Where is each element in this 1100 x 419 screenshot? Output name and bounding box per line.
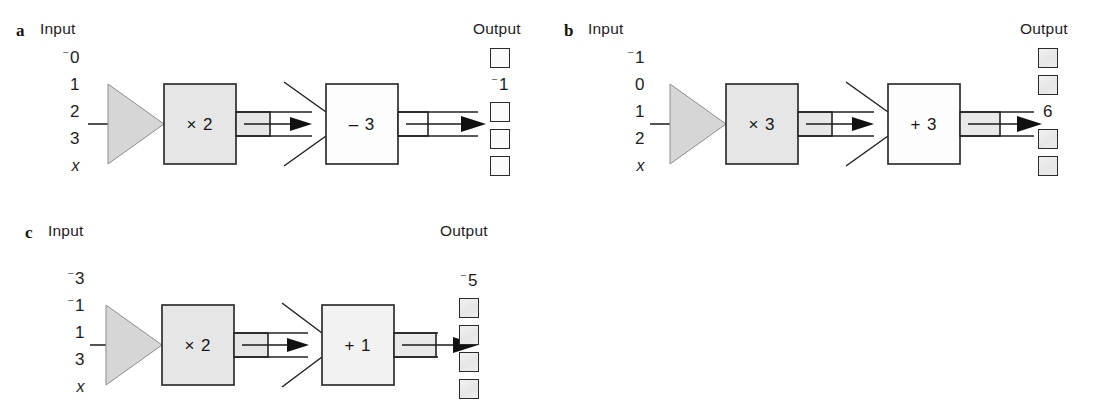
- output-empty-box[interactable]: [490, 48, 510, 68]
- machine-label-1: × 2: [184, 336, 211, 355]
- input-number: 1: [70, 75, 80, 94]
- output-cell: [490, 125, 510, 152]
- panel-a: a Input Output ⁻0 1 2 3 x: [0, 0, 550, 205]
- panel-b-input-column: ⁻1 0 1 2 x: [605, 44, 645, 179]
- funnel-open-2-upper: [284, 82, 326, 112]
- input-number: 1: [635, 48, 645, 67]
- negative-sign: ⁻: [62, 47, 70, 62]
- output-empty-box[interactable]: [1038, 156, 1058, 176]
- panel-b-letter: b: [564, 22, 573, 39]
- panel-c-diagram-svg: × 2 + 1: [90, 299, 480, 391]
- input-number: 1: [75, 323, 85, 342]
- connector-arrow-head: [852, 117, 874, 131]
- output-cell: [459, 321, 479, 348]
- input-number: 0: [70, 48, 80, 67]
- output-cell: [1038, 71, 1058, 98]
- input-variable: x: [605, 152, 645, 179]
- input-value: 1: [40, 71, 80, 98]
- figure-root: { "figure": { "title_hidden": "", "capti…: [0, 0, 1100, 419]
- output-cell: [1038, 44, 1058, 71]
- output-cell: [1038, 125, 1058, 152]
- panel-c-input-caption: Input: [48, 223, 83, 239]
- output-empty-box[interactable]: [1038, 75, 1058, 95]
- funnel-solid-1: [108, 84, 164, 164]
- input-number: 2: [635, 129, 645, 148]
- output-number: 5: [468, 271, 478, 290]
- output-empty-box[interactable]: [1038, 129, 1058, 149]
- input-number: 1: [75, 296, 85, 315]
- funnel-open-2-upper: [846, 82, 888, 112]
- output-number: 1: [499, 75, 509, 94]
- input-value: ⁻3: [45, 265, 85, 292]
- negative-sign: ⁻: [67, 295, 75, 310]
- input-value: 2: [605, 125, 645, 152]
- panel-c-output-column: ⁻5: [455, 267, 483, 402]
- funnel-open-2-upper: [282, 303, 322, 333]
- output-empty-box[interactable]: [490, 156, 510, 176]
- input-value: ⁻1: [605, 44, 645, 71]
- panel-a-letter: a: [16, 22, 25, 39]
- panel-c: c Input Output ⁻3 ⁻1 1 3 x × 2: [0, 205, 550, 419]
- input-value: 1: [45, 319, 85, 346]
- negative-sign: ⁻: [460, 270, 468, 285]
- panel-b-diagram-svg: × 3 + 3: [650, 78, 1050, 170]
- output-cell: [490, 152, 510, 179]
- output-empty-box[interactable]: [1038, 48, 1058, 68]
- output-cell: [459, 294, 479, 321]
- negative-sign: ⁻: [627, 47, 635, 62]
- input-value: 0: [605, 71, 645, 98]
- panel-a-diagram-svg: × 2 – 3: [88, 78, 488, 170]
- machine-label-1: × 2: [186, 115, 213, 134]
- panel-c-output-caption: Output: [440, 223, 488, 239]
- panel-b-machine-diagram: × 3 + 3: [650, 78, 1050, 170]
- output-empty-box[interactable]: [459, 379, 479, 399]
- negative-sign: ⁻: [67, 268, 75, 283]
- panel-b-input-caption: Input: [588, 21, 623, 37]
- input-value: 3: [45, 346, 85, 373]
- output-empty-box[interactable]: [490, 102, 510, 122]
- panel-a-output-caption: Output: [473, 21, 521, 37]
- funnel-open-2-lower: [846, 136, 888, 166]
- output-empty-box[interactable]: [459, 325, 479, 345]
- machine-label-2: – 3: [349, 115, 376, 134]
- output-value: ⁻5: [460, 272, 478, 289]
- panel-a-output-column: ⁻1: [486, 44, 514, 179]
- funnel-open-2-lower: [282, 357, 322, 387]
- panel-b-output-caption: Output: [1020, 21, 1068, 37]
- panel-c-machine-diagram: × 2 + 1: [90, 299, 480, 391]
- output-cell: ⁻1: [491, 71, 509, 98]
- output-cell: [1038, 152, 1058, 179]
- output-cell: [459, 348, 479, 375]
- input-number: 3: [70, 129, 80, 148]
- machine-label-1: × 3: [748, 115, 775, 134]
- input-number: 2: [70, 102, 80, 121]
- input-variable: x: [45, 373, 85, 400]
- funnel-solid-1: [670, 84, 726, 164]
- negative-sign: ⁻: [491, 74, 499, 89]
- panel-a-machine-diagram: × 2 – 3: [88, 78, 488, 170]
- output-empty-box[interactable]: [459, 298, 479, 318]
- panel-b: b Input Output ⁻1 0 1 2 x × 3: [550, 0, 1100, 205]
- input-value: 2: [40, 98, 80, 125]
- machine-label-2: + 3: [910, 115, 937, 134]
- input-number: 0: [635, 75, 645, 94]
- panel-c-input-column: ⁻3 ⁻1 1 3 x: [45, 265, 85, 400]
- panel-a-input-column: ⁻0 1 2 3 x: [40, 44, 80, 179]
- input-variable: x: [40, 152, 80, 179]
- connector-arrow-head: [287, 338, 309, 352]
- connector-arrow-head: [290, 117, 312, 131]
- machine-label-2: + 1: [344, 336, 371, 355]
- panel-a-input-caption: Input: [40, 21, 75, 37]
- output-empty-box[interactable]: [490, 129, 510, 149]
- input-number: 3: [75, 269, 85, 288]
- panel-b-output-column: 6: [1034, 44, 1062, 179]
- output-value: 6: [1043, 103, 1053, 120]
- output-cell: [490, 98, 510, 125]
- input-number: 3: [75, 350, 85, 369]
- input-value: ⁻0: [40, 44, 80, 71]
- output-cell: 6: [1043, 98, 1053, 125]
- panel-c-letter: c: [25, 224, 33, 241]
- output-cell: [459, 375, 479, 402]
- output-arrow-head: [461, 116, 486, 132]
- output-empty-box[interactable]: [459, 352, 479, 372]
